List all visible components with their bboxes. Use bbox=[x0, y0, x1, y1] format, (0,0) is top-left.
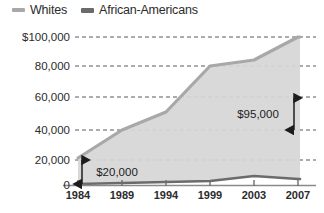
annotation-label-1984: $20,000 bbox=[96, 166, 138, 178]
y-tick-label-20000: 20,000 bbox=[35, 154, 70, 166]
x-axis-tick-labels: 1984 1989 1994 1999 2003 2007 bbox=[66, 189, 310, 201]
y-tick-label-80000: 80,000 bbox=[35, 60, 70, 72]
x-tick-label-2007: 2007 bbox=[286, 189, 310, 201]
x-tick-label-1994: 1994 bbox=[154, 189, 179, 201]
wealth-gap-chart: Whites African-Americans $100 bbox=[0, 0, 324, 213]
x-tick-label-2003: 2003 bbox=[242, 189, 266, 201]
x-tick-label-1999: 1999 bbox=[198, 189, 222, 201]
y-tick-label-60000: 60,000 bbox=[35, 91, 70, 103]
y-tick-label-40000: 40,000 bbox=[35, 124, 70, 136]
plot-area: $100,000 80,000 60,000 40,000 20,000 0 1… bbox=[0, 0, 324, 213]
x-tick-label-1984: 1984 bbox=[66, 189, 91, 201]
y-tick-label-100000: $100,000 bbox=[22, 31, 70, 43]
annotation-label-2007: $95,000 bbox=[237, 108, 279, 120]
x-tick-label-1989: 1989 bbox=[110, 189, 134, 201]
y-axis-tick-labels: $100,000 80,000 60,000 40,000 20,000 0 bbox=[22, 31, 70, 191]
